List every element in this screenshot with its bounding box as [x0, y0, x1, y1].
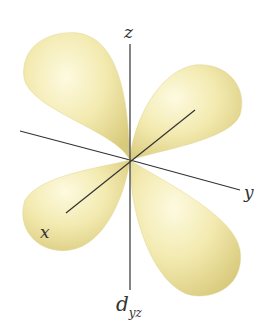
lobe-lower-right [130, 160, 241, 296]
y-axis-label: y [244, 182, 254, 202]
orbital-label-main: d [116, 292, 129, 316]
orbital-label: dyz [116, 292, 142, 316]
lobe-upper-left [24, 33, 130, 160]
z-axis-label: z [124, 22, 133, 42]
orbital-label-subscript: yz [129, 306, 142, 320]
x-axis-label: x [40, 222, 50, 242]
orbital-diagram [0, 0, 264, 324]
lobe-upper-right [130, 65, 242, 160]
